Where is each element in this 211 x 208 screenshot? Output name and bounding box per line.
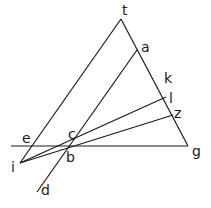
diagram-lines (11, 19, 188, 192)
point-label-b: b (66, 149, 75, 165)
point-label-t: t (122, 2, 128, 18)
segment-i-z (20, 115, 173, 163)
point-label-k: k (164, 70, 173, 86)
segment-i-l (20, 97, 166, 163)
geometric-diagram: taklzgecbid (0, 0, 211, 208)
point-label-c: c (68, 126, 76, 142)
point-label-l: l (169, 90, 173, 106)
point-label-e: e (22, 130, 31, 146)
point-label-z: z (174, 105, 181, 121)
diagram-labels: taklzgecbid (11, 2, 201, 198)
segment-t-g (121, 19, 188, 146)
point-label-a: a (141, 39, 150, 55)
point-label-g: g (192, 143, 201, 159)
point-label-d: d (41, 182, 50, 198)
segment-a-d (37, 50, 137, 192)
point-label-i: i (11, 159, 15, 175)
